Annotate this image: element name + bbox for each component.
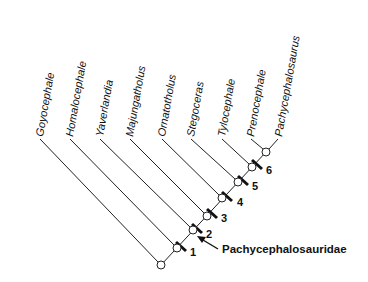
branch-goyocephale [40, 139, 158, 262]
branch-prenocephale [251, 139, 263, 149]
taxon-label: Yaverlandia [93, 79, 115, 137]
taxon-label: Goyocephale [33, 71, 56, 137]
branch-majungatholus [130, 139, 204, 213]
synapomorphy-bars [176, 160, 262, 251]
node-b [189, 226, 197, 234]
taxon-labels: Goyocephale Homalocephale Yaverlandia Ma… [33, 34, 302, 137]
node-number: 6 [266, 164, 272, 176]
arrow-shaft [203, 240, 218, 249]
taxon-label: Stegoceras [184, 80, 206, 137]
branch-ornatotholus [162, 139, 219, 195]
node-g [262, 148, 270, 156]
node-e [234, 178, 242, 186]
node-number: 3 [221, 212, 227, 224]
branch-pachycephalosaurus [269, 139, 278, 149]
node-c [203, 212, 211, 220]
node-root [157, 261, 165, 269]
branch-tylocephale [222, 139, 249, 164]
cladogram: Goyocephale Homalocephale Yaverlandia Ma… [0, 0, 368, 282]
taxon-label: Prenocephale [244, 68, 268, 137]
clade-label: Pachycephalosauridae [222, 243, 347, 255]
node-number: 2 [206, 228, 212, 240]
taxon-label: Majungatholus [123, 64, 147, 137]
taxon-label: Tylocephale [215, 78, 237, 138]
node-number: 1 [190, 246, 196, 258]
clade-annotation: Pachycephalosauridae [197, 236, 347, 255]
node-number: 5 [252, 180, 258, 192]
taxon-label: Pachycephalosaurus [272, 34, 302, 137]
branch-homalocephale [70, 139, 174, 245]
node-a [173, 244, 181, 252]
taxon-label: Homalocephale [63, 60, 88, 137]
node-f [248, 163, 256, 171]
arrow-head-icon [197, 236, 206, 243]
taxon-label: Ornatotholus [155, 73, 178, 138]
node-number: 4 [237, 196, 244, 208]
node-d [218, 194, 226, 202]
